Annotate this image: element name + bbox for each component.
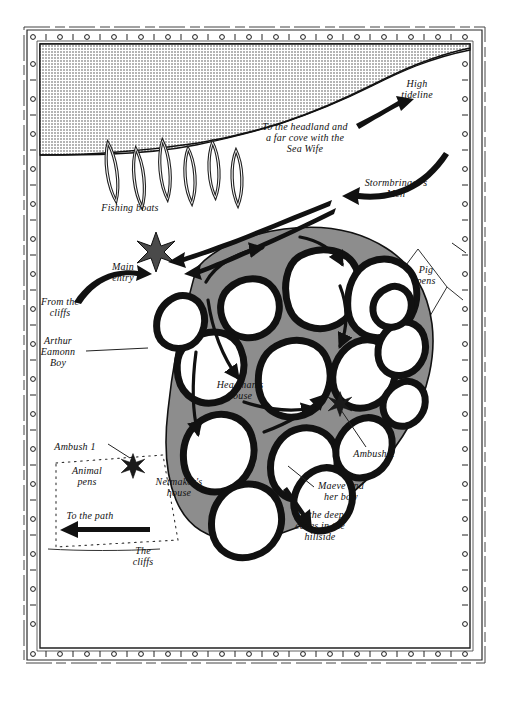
leader-pig-pens — [452, 243, 466, 253]
border-rivets-bottom — [31, 652, 468, 657]
label-from-the-cliffs: From the cliffs — [26, 296, 94, 318]
label-ambush-1: Ambush 1 — [39, 441, 111, 452]
label-stormbringers-men: Stormbringer's Men — [344, 177, 448, 199]
border-rivets-right — [463, 62, 468, 627]
label-fishing-boats: Fishing boats — [80, 202, 180, 213]
label-to-the-deep-caves: To the deep caves in the hillside — [276, 509, 364, 543]
label-to-the-path: To the path — [48, 510, 132, 521]
label-headmans-house: Headman's house — [198, 379, 282, 401]
label-pig-pens: Pig pens — [404, 264, 448, 286]
label-maeve-and-her-bow: Maeve and her bow — [297, 480, 385, 502]
label-to-the-headland: To the headland and a far cove with the … — [235, 121, 375, 155]
label-main-entry: Main entry — [96, 261, 150, 283]
leader-arthur-eamonn-boy — [86, 348, 148, 351]
label-netmakers-house: Netmaker's house — [136, 476, 222, 498]
leader-ambush-1 — [108, 444, 130, 458]
label-the-cliffs: The cliffs — [120, 545, 166, 567]
arrow-to-the-path — [60, 521, 150, 538]
label-animal-pens: Animal pens — [57, 465, 117, 487]
label-high-tideline: High tideline — [387, 78, 447, 100]
map-illustration: High tideline To the headland and a far … — [0, 0, 509, 718]
label-ambush-2: Ambush 2 — [338, 448, 410, 459]
label-arthur-eamonn-boy: Arthur Eamonn Boy — [26, 335, 90, 369]
border-rivets-top — [31, 35, 468, 40]
